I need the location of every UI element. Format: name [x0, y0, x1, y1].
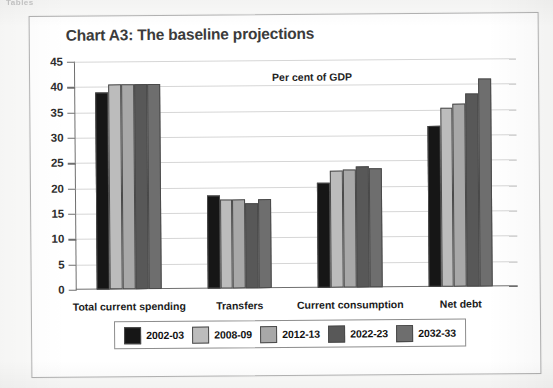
- legend-item: 2002-03: [124, 326, 184, 343]
- legend-item: 2032-33: [396, 324, 456, 341]
- y-axis-tick: [67, 87, 75, 88]
- bar: [478, 79, 493, 287]
- y-axis-tick-label: 15: [51, 208, 64, 220]
- bar: [356, 167, 370, 288]
- bar: [369, 169, 383, 288]
- y-axis-tick-label: 5: [58, 258, 65, 270]
- bar-group: Transfers: [206, 60, 272, 289]
- y-axis-tick-label: 25: [51, 157, 64, 169]
- legend-item: 2022-23: [328, 325, 388, 342]
- y-axis-tick-label: 35: [51, 106, 64, 118]
- y-axis-tick: [69, 290, 77, 291]
- legend-item: 2008-09: [192, 326, 252, 343]
- legend-swatch: [328, 325, 345, 342]
- legend-label: 2008-09: [214, 328, 252, 340]
- x-axis-category-label: Transfers: [216, 299, 263, 311]
- x-axis-category-label: Total current spending: [73, 300, 186, 313]
- legend-item: 2012-13: [260, 325, 320, 342]
- y-axis-tick-label: 40: [50, 81, 63, 93]
- y-axis-tick: [68, 138, 76, 139]
- bar-group: Net debt: [427, 58, 493, 287]
- legend-swatch: [124, 327, 141, 344]
- bar: [258, 199, 272, 288]
- x-axis-category-label: Current consumption: [297, 298, 404, 311]
- y-axis-tick: [67, 112, 75, 113]
- y-axis-line: [74, 62, 77, 290]
- bar: [317, 183, 331, 288]
- y-axis-tick-label: 20: [51, 182, 64, 194]
- bar: [330, 171, 344, 288]
- bar: [207, 196, 221, 289]
- bar-group: Total current spending: [95, 61, 161, 290]
- chart-page-frame: Chart A3: The baseline projections Per c…: [29, 12, 542, 378]
- y-axis-tick: [68, 214, 76, 215]
- bar: [220, 199, 234, 288]
- y-axis-tick: [68, 163, 76, 164]
- x-axis-category-label: Net debt: [440, 297, 482, 309]
- y-axis-tick: [68, 239, 76, 240]
- bar: [147, 84, 162, 289]
- bar: [232, 200, 246, 289]
- y-axis-tick: [68, 188, 76, 189]
- legend-label: 2012-13: [282, 328, 320, 340]
- legend-swatch: [192, 326, 209, 343]
- bar: [245, 203, 259, 288]
- bar-group: Current consumption: [316, 59, 382, 288]
- legend-label: 2032-33: [418, 327, 456, 339]
- bar: [427, 126, 441, 287]
- chart-title: Chart A3: The baseline projections: [66, 25, 315, 45]
- chart-container: Chart A3: The baseline projections Per c…: [30, 13, 541, 377]
- chart-legend: 2002-032008-092012-132022-232032-33: [114, 319, 466, 350]
- legend-label: 2002-03: [146, 329, 184, 341]
- y-axis-tick: [69, 264, 77, 265]
- legend-swatch: [260, 326, 277, 343]
- legend-swatch: [396, 324, 413, 341]
- y-axis-tick: [67, 62, 75, 63]
- legend-label: 2022-23: [350, 327, 388, 339]
- plot-area: Per cent of GDP 051015202530354045 Total…: [74, 58, 518, 289]
- scan-top-cut-text: Tables: [6, 0, 34, 7]
- bar: [343, 170, 357, 288]
- y-axis-tick-label: 10: [51, 233, 64, 245]
- y-axis-tick-label: 30: [51, 132, 64, 144]
- y-axis-tick-label: 45: [50, 56, 63, 68]
- y-axis-tick-label: 0: [58, 284, 65, 296]
